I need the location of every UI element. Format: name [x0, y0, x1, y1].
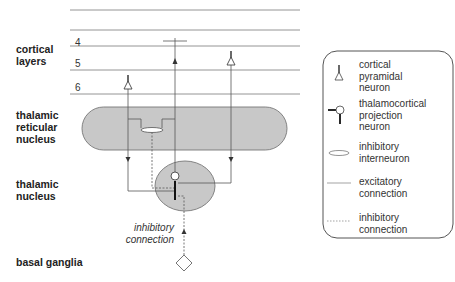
legend-label-cortical-pyramidal-neuron: cortical pyramidal neuron — [359, 59, 402, 94]
legend-line: excitatory — [359, 176, 407, 188]
inhibitory-interneuron-icon — [329, 151, 349, 156]
inhibitory-interneuron — [141, 128, 163, 133]
legend-line: thalamocortical — [359, 98, 426, 110]
basal-ganglia-neuron-icon — [176, 255, 192, 271]
legend-line: connection — [359, 188, 407, 200]
label-thalamic-reticular-nucleus: thalamic reticular nucleus — [16, 109, 59, 145]
label-line: nucleus — [16, 133, 59, 145]
legend-label-thalamocortical-projection-neuron: thalamocortical projection neuron — [359, 98, 426, 133]
legend-line: inhibitory — [359, 141, 410, 153]
label-basal-ganglia: basal ganglia — [16, 256, 83, 268]
legend-line: neuron — [359, 121, 426, 133]
inhibitory-arrowhead — [182, 229, 187, 234]
label-line: nucleus — [16, 190, 59, 202]
label-line: thalamic — [16, 109, 59, 121]
label-line: reticular — [16, 121, 59, 133]
legend-label-inhibitory-interneuron: inhibitory interneuron — [359, 141, 410, 164]
legend-line: interneuron — [359, 153, 410, 165]
thalamocortical-soma — [171, 172, 179, 180]
thalamic-reticular-nucleus-shape — [82, 107, 287, 150]
legend-line: inhibitory — [359, 212, 407, 224]
legend-line: pyramidal — [359, 71, 402, 83]
label-line: thalamic — [16, 178, 59, 190]
annotation-line: connection — [118, 234, 174, 246]
annotation-line: inhibitory — [118, 222, 174, 234]
layer-number-4: 4 — [75, 37, 81, 48]
legend-line: cortical — [359, 59, 402, 71]
legend-line: connection — [359, 224, 407, 236]
cortical-layer-lines — [70, 10, 300, 94]
thalamic-nucleus-shape — [155, 161, 215, 211]
legend-line: neuron — [359, 82, 402, 94]
legend-label-inhibitory-connection: inhibitory connection — [359, 212, 407, 235]
layer-number-6: 6 — [75, 82, 81, 93]
label-line: layers — [16, 55, 53, 67]
label-thalamic-nucleus: thalamic nucleus — [16, 178, 59, 202]
label-cortical-layers: cortical layers — [16, 43, 53, 67]
layer-number-5: 5 — [75, 58, 81, 69]
label-line: cortical — [16, 43, 53, 55]
inhibitory-connection-annotation: inhibitory connection — [118, 222, 174, 246]
legend-line: projection — [359, 110, 426, 122]
legend-label-excitatory-connection: excitatory connection — [359, 176, 407, 199]
